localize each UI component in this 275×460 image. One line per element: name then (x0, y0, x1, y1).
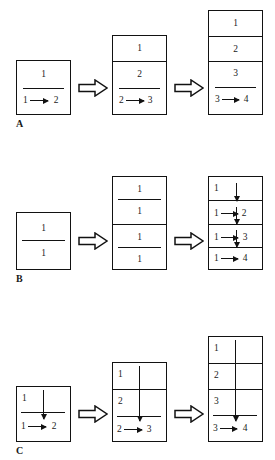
cell-rule (22, 240, 65, 241)
cell-number: 3 (214, 397, 219, 407)
transition-from: 1 (214, 254, 219, 264)
block-arrow-right-icon (174, 232, 204, 250)
cell-rule (215, 87, 256, 88)
transition-to: 3 (243, 233, 248, 243)
row-b-stage-3-box: 1 1 2 1 3 1 4 (208, 176, 263, 270)
transition-from: 1 (21, 422, 26, 432)
cell: 1 1 (113, 224, 166, 269)
block-arrow-right-icon (78, 232, 108, 250)
cell-number: 3 (209, 69, 262, 79)
transition-from: 3 (213, 424, 218, 434)
arrow-down-long-icon (43, 390, 44, 419)
arrow-right-icon (126, 100, 144, 101)
row-a-stage-1-box: 1 1 2 (16, 60, 71, 115)
arrow-right-icon (30, 100, 48, 101)
cell-transition: 1 2 (21, 422, 57, 432)
cell-number: 1 (113, 185, 166, 195)
arrow-down-long-icon (235, 340, 236, 421)
cell: 3 3 4 (209, 61, 262, 112)
cell: 1 1 (113, 177, 166, 224)
transition-to: 4 (243, 254, 248, 264)
cell: 1 1 2 (17, 61, 70, 114)
arrow-right-icon (221, 258, 238, 259)
block-arrow-right-icon (174, 79, 204, 97)
cell-transition: 1 3 (214, 233, 248, 243)
cell-number: 1 (17, 70, 70, 80)
cell-number: 1 (17, 249, 70, 259)
cell-number: 1 (209, 19, 262, 29)
cell: 1 (113, 36, 166, 61)
cell-transition: 1 2 (23, 96, 59, 106)
cell: 2 (209, 36, 262, 61)
transition-to: 3 (147, 425, 152, 435)
cell-number: 2 (118, 397, 123, 407)
row-c-stage-2-box: 1 2 2 3 (112, 362, 167, 442)
row-a-stage-2-box: 1 2 2 3 (112, 35, 167, 115)
transition-to: 2 (242, 209, 247, 219)
cell-rule (118, 247, 161, 248)
cell-number: 1 (113, 255, 166, 265)
row-b-stage-2-box: 1 1 1 1 (112, 176, 167, 270)
block-arrow-right-icon (78, 405, 108, 423)
transition-to: 4 (244, 95, 249, 105)
cell-rule (23, 88, 64, 89)
cell-rule (118, 199, 161, 200)
cell: 1 (209, 11, 262, 36)
cell-transition: 2 3 (119, 96, 153, 106)
row-c-stage-1-box: 1 1 2 (16, 386, 71, 442)
cell-number: 1 (214, 344, 219, 354)
transition-to: 4 (243, 424, 248, 434)
cell-number: 1 (113, 207, 166, 217)
arrow-right-icon (220, 428, 237, 429)
cell-transition: 3 4 (215, 95, 249, 105)
cell-transition: 1 4 (214, 254, 248, 264)
figure-canvas: 1 1 2 A 1 2 2 3 (0, 0, 275, 460)
cell-transition: 2 3 (117, 425, 152, 435)
cell-number: 1 (214, 184, 219, 194)
cell-number: 2 (113, 70, 166, 80)
arrow-right-icon (28, 426, 46, 427)
cell-transition: 3 4 (213, 424, 248, 434)
transition-from: 2 (117, 425, 122, 435)
transition-from: 1 (23, 96, 28, 106)
cell-number: 1 (17, 224, 70, 234)
arrow-right-icon (222, 99, 239, 100)
row-label-c: C (16, 446, 23, 456)
row-b-stage-1-box: 1 1 (16, 212, 71, 270)
transition-from: 1 (214, 233, 219, 243)
arrow-down-icon (236, 230, 237, 247)
transition-from: 3 (215, 95, 220, 105)
cell-number: 2 (209, 45, 262, 55)
cell-number: 1 (118, 370, 123, 380)
transition-from: 2 (119, 96, 124, 106)
row-label-a: A (16, 119, 23, 129)
transition-from: 1 (214, 209, 219, 219)
cell-number: 1 (113, 44, 166, 54)
block-arrow-right-icon (174, 405, 204, 423)
row-c-stage-3-box: 1 2 3 3 4 (208, 336, 263, 442)
arrow-down-long-icon (139, 366, 140, 421)
arrow-right-icon (124, 429, 142, 430)
cell: 2 2 3 (113, 61, 166, 114)
transition-to: 2 (54, 96, 59, 106)
cell: 1 1 2 (17, 387, 70, 441)
row-a-stage-3-box: 1 2 3 3 4 (208, 10, 263, 115)
cell-transition: 1 2 (214, 209, 247, 219)
block-arrow-right-icon (78, 79, 108, 97)
cell-number: 2 (214, 371, 219, 381)
transition-to: 2 (52, 422, 57, 432)
cell: 1 1 (17, 213, 70, 269)
arrow-down-icon (236, 183, 237, 201)
row-label-b: B (16, 274, 23, 284)
cell-rule (119, 88, 160, 89)
cell-number: 1 (113, 233, 166, 243)
cell-number: 1 (22, 394, 27, 404)
transition-to: 3 (148, 96, 153, 106)
cell: 1 4 (209, 247, 262, 268)
arrow-down-icon (236, 207, 237, 224)
